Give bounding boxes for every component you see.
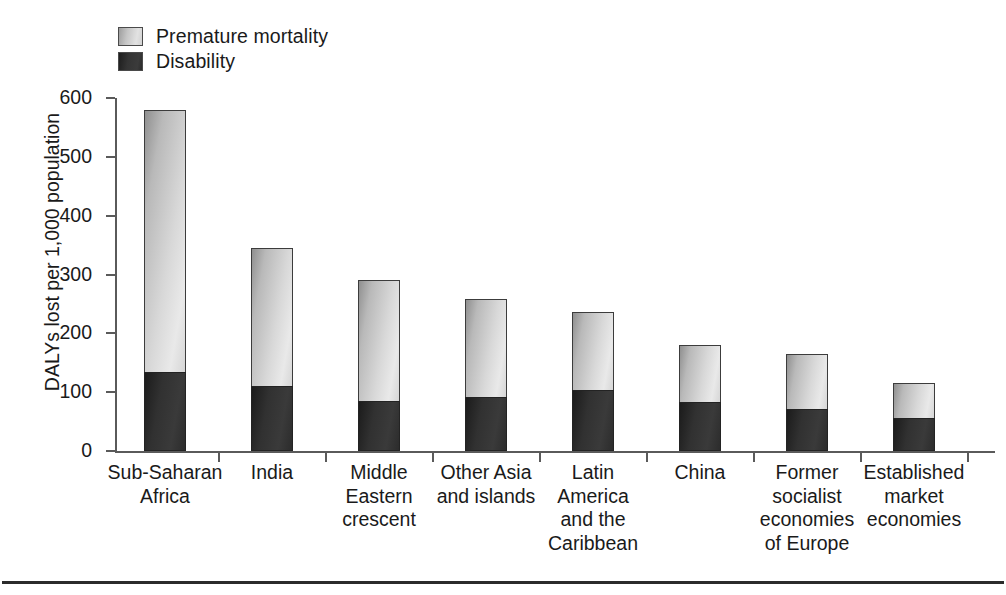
y-axis-tick-label: 400	[59, 205, 92, 225]
y-axis-tick-label: 500	[59, 146, 92, 166]
y-axis-tick-label: 600	[59, 87, 92, 107]
bar-segment-disability	[572, 390, 614, 451]
legend-item-disability: Disability	[118, 49, 448, 74]
y-axis-tick: 600	[106, 97, 115, 99]
bar-segment-premature-mortality	[893, 383, 935, 418]
legend-swatch-premature-mortality	[118, 27, 143, 46]
y-axis-line	[115, 98, 117, 451]
bar-segment-premature-mortality	[465, 299, 507, 397]
chart-legend: Premature mortality Disability	[118, 24, 448, 74]
bottom-divider	[2, 581, 1004, 584]
x-axis-category-label: India	[212, 461, 332, 485]
y-axis-tick: 100	[106, 391, 115, 393]
bar-stack	[144, 110, 186, 451]
bar-segment-disability	[465, 397, 507, 451]
x-axis-category-label: Established market economies	[854, 461, 974, 532]
y-axis-tick-label: 100	[59, 381, 92, 401]
y-axis-tick: 500	[106, 156, 115, 158]
x-axis-category-label: China	[640, 461, 760, 485]
y-axis-tick: 300	[106, 274, 115, 276]
plot-area: 0100200300400500600	[115, 98, 995, 451]
chart-figure: Premature mortality Disability DALYs los…	[0, 0, 1006, 595]
bar-stack	[251, 248, 293, 451]
bar-segment-premature-mortality	[786, 354, 828, 409]
x-axis-category-label: Sub-Saharan Africa	[105, 461, 225, 508]
bar-segment-disability	[144, 372, 186, 451]
y-axis-tick: 0	[106, 450, 115, 452]
legend-item-premature-mortality: Premature mortality	[118, 24, 448, 49]
bar-stack	[465, 299, 507, 451]
y-axis-tick-label: 200	[59, 322, 92, 342]
bar-segment-disability	[786, 409, 828, 451]
legend-label-premature-mortality: Premature mortality	[156, 27, 328, 46]
y-axis-tick: 400	[106, 215, 115, 217]
x-axis-line	[115, 451, 995, 453]
bar-stack	[893, 383, 935, 451]
legend-swatch-disability	[118, 52, 143, 71]
bar-stack	[358, 280, 400, 451]
y-axis-tick-label: 300	[59, 264, 92, 284]
bar-segment-premature-mortality	[572, 312, 614, 390]
bar-segment-premature-mortality	[358, 280, 400, 401]
bar-segment-premature-mortality	[251, 248, 293, 386]
bar-stack	[679, 345, 721, 451]
x-axis-category-label: Latin America and the Caribbean	[533, 461, 653, 555]
bar-segment-disability	[358, 401, 400, 451]
bar-segment-premature-mortality	[679, 345, 721, 402]
bar-segment-disability	[251, 386, 293, 451]
y-axis-tick-label: 0	[81, 440, 92, 460]
x-axis-category-label: Former socialist economies of Europe	[747, 461, 867, 555]
x-axis-category-label: Other Asia and islands	[426, 461, 546, 508]
x-axis-category-label: Middle Eastern crescent	[319, 461, 439, 532]
legend-label-disability: Disability	[156, 52, 235, 71]
bar-segment-premature-mortality	[144, 110, 186, 372]
bar-segment-disability	[893, 418, 935, 451]
bar-stack	[572, 312, 614, 451]
bar-segment-disability	[679, 402, 721, 451]
y-axis-tick: 200	[106, 332, 115, 334]
bar-stack	[786, 354, 828, 451]
